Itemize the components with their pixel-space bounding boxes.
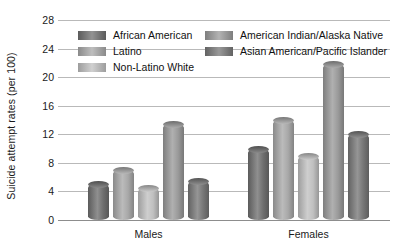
bar-cap <box>248 146 269 153</box>
legend-item: African American <box>78 27 194 43</box>
legend-swatch-icon <box>205 47 233 56</box>
bar <box>163 124 184 220</box>
bar-cap <box>348 131 369 138</box>
gridline <box>58 220 390 221</box>
legend-label: Latino <box>113 45 142 57</box>
legend-item: Non-Latino White <box>78 59 194 75</box>
y-tick-label: 20 <box>14 71 54 83</box>
legend-item: American Indian/Alaska Native <box>205 27 387 43</box>
y-tick-label: 28 <box>14 14 54 26</box>
legend-label: Asian American/Pacific Islander <box>240 45 387 57</box>
bar-cap <box>298 153 319 160</box>
y-tick-label: 0 <box>14 214 54 226</box>
bar-chart-figure: Suicide attempt rates (per 100) 04812162… <box>0 0 413 252</box>
bar-cap <box>138 185 159 192</box>
chart-legend: African AmericanLatinoNon-Latino White A… <box>78 27 396 75</box>
legend-label: African American <box>113 29 192 41</box>
x-tick-label: Females <box>288 228 328 240</box>
y-tick-label: 8 <box>14 157 54 169</box>
y-tick-label: 24 <box>14 43 54 55</box>
legend-item: Asian American/Pacific Islander <box>205 43 387 59</box>
bar <box>323 64 344 220</box>
bar <box>273 120 294 220</box>
legend-column-right: American Indian/Alaska NativeAsian Ameri… <box>205 27 387 59</box>
bar <box>248 149 269 220</box>
y-tick-label: 12 <box>14 128 54 140</box>
legend-label: American Indian/Alaska Native <box>240 29 383 41</box>
bar-cap <box>188 178 209 185</box>
bar-cap <box>163 121 184 128</box>
legend-swatch-icon <box>78 63 106 72</box>
legend-item: Latino <box>78 43 194 59</box>
bar <box>348 134 369 220</box>
y-tick-label: 16 <box>14 100 54 112</box>
bar <box>298 156 319 220</box>
bar <box>188 181 209 220</box>
bar <box>88 184 109 220</box>
x-tick-label: Males <box>134 228 162 240</box>
bar-cap <box>113 167 134 174</box>
bar <box>113 170 134 220</box>
legend-swatch-icon <box>78 31 106 40</box>
y-tick-label: 4 <box>14 185 54 197</box>
bar-cap <box>273 117 294 124</box>
legend-column-left: African AmericanLatinoNon-Latino White <box>78 27 194 75</box>
legend-label: Non-Latino White <box>113 61 194 73</box>
bar <box>138 188 159 220</box>
legend-swatch-icon <box>78 47 106 56</box>
bar-cap <box>88 181 109 188</box>
legend-swatch-icon <box>205 31 233 40</box>
